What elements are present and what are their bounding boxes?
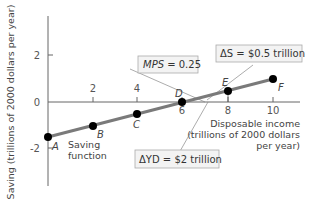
point-label-d: D: [175, 88, 183, 99]
delta-yd-annotation: ΔYD = $2 trillion: [139, 154, 222, 165]
point-label-e: E: [222, 77, 229, 88]
x-axis-label-line2: (trillions of 2000 dollars: [187, 129, 300, 140]
point-label-c: C: [133, 119, 140, 130]
y-axis-label: Saving (trillions of 2000 dollars per ye…: [5, 5, 16, 200]
point-b: [89, 122, 97, 130]
x-tick-2: 2: [90, 83, 96, 94]
point-label-f: F: [278, 82, 284, 93]
x-tick-6: 6: [179, 105, 185, 116]
y-tick-neg2: -2: [30, 143, 40, 154]
x-axis-label-line1: Disposable income: [210, 118, 300, 129]
x-tick-4: 4: [134, 83, 140, 94]
series-label-line2: function: [68, 150, 107, 161]
delta-s-annotation: ΔS = $0.5 trillion: [220, 48, 305, 59]
point-c: [133, 110, 141, 118]
point-label-a: A: [51, 141, 59, 152]
point-e: [224, 87, 232, 95]
point-a: [44, 133, 52, 141]
saving-function-chart: 2 0 -2 2 4 6 8 10 Saving (trillions of 2…: [0, 0, 310, 200]
series-label-line1: Saving: [68, 139, 100, 150]
y-tick-0: 0: [34, 97, 40, 108]
point-d: [178, 98, 186, 106]
mps-annotation: MPS = 0.25: [143, 59, 201, 70]
x-tick-10: 10: [267, 105, 280, 116]
y-tick-2: 2: [34, 50, 40, 61]
x-axis-label-line3: per year): [256, 140, 300, 151]
point-f: [269, 75, 277, 83]
x-tick-8: 8: [225, 105, 231, 116]
